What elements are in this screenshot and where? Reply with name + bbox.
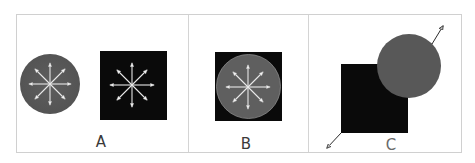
panel-label-b: B <box>241 135 251 153</box>
panel-label-a: A <box>96 133 107 151</box>
panel-b: B <box>215 52 282 153</box>
panel-c: C <box>327 26 443 154</box>
outward-arrows-icon <box>29 63 71 105</box>
three-panel-figure: A B C <box>0 0 475 163</box>
arrow-up-right-icon <box>432 26 443 44</box>
panel-label-c: C <box>386 136 396 154</box>
arrow-down-left-icon <box>327 133 341 148</box>
gray-circle <box>377 34 441 98</box>
panel-a: A <box>20 51 167 151</box>
